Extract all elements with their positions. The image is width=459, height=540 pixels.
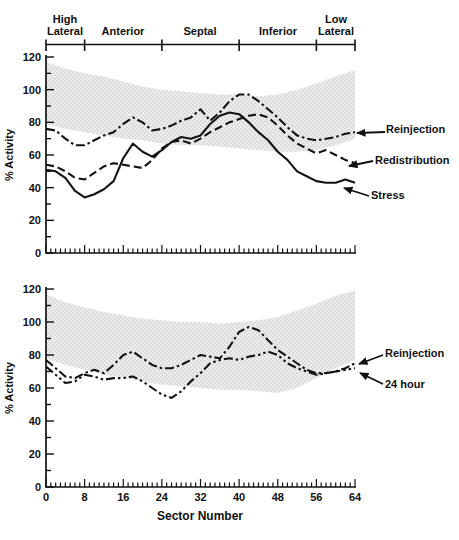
y-tick-label: 120 xyxy=(23,283,41,295)
y-tick-label: 0 xyxy=(35,481,41,493)
x-ticks xyxy=(46,479,355,487)
x-tick-label: 0 xyxy=(43,491,49,503)
y-tick-label: 0 xyxy=(35,247,41,259)
y-tick-label: 20 xyxy=(29,448,41,460)
bottom-panel: 0204060801001200816243240485664 xyxy=(23,283,383,503)
y-tick-label: 60 xyxy=(29,382,41,394)
annotation-arrow xyxy=(344,188,369,196)
annotation-stress: Stress xyxy=(371,189,405,201)
x-ticks xyxy=(46,245,355,253)
x-tick-labels: 0816243240485664 xyxy=(43,491,362,503)
x-tick-label: 16 xyxy=(117,491,129,503)
annotation-arrow xyxy=(357,132,385,133)
annotation-arrow xyxy=(360,373,383,384)
dual-panel-line-chart: 0204060801001200204060801001200816243240… xyxy=(0,0,459,540)
region-label-septal: Septal xyxy=(183,25,216,37)
x-tick-label: 56 xyxy=(310,491,322,503)
x-tick-label: 48 xyxy=(272,491,284,503)
y-tick-label: 80 xyxy=(29,116,41,128)
annotation-reinjection-bottom: Reinjection xyxy=(385,347,444,359)
y-axis-title-top: % Activity xyxy=(3,115,19,195)
x-tick-label: 24 xyxy=(156,491,169,503)
normal-range-band xyxy=(46,291,355,393)
y-tick-labels: 020406080100120 xyxy=(23,51,41,259)
y-axis-title-bottom: % Activity xyxy=(3,348,19,428)
y-tick-label: 120 xyxy=(23,51,41,63)
annotation-arrow xyxy=(359,355,383,364)
region-ruler xyxy=(45,40,355,52)
y-tick-label: 60 xyxy=(29,149,41,161)
x-tick-label: 8 xyxy=(82,491,88,503)
x-axis-title: Sector Number xyxy=(157,509,243,523)
top-panel: 020406080100120 xyxy=(23,51,385,259)
region-label-low-lateral: Low Lateral xyxy=(310,13,362,37)
y-tick-label: 100 xyxy=(23,84,41,96)
x-tick-label: 40 xyxy=(233,491,245,503)
y-tick-label: 80 xyxy=(29,349,41,361)
region-label-inferior: Inferior xyxy=(259,25,297,37)
x-tick-label: 32 xyxy=(194,491,206,503)
y-tick-label: 40 xyxy=(29,415,41,427)
figure: 0204060801001200204060801001200816243240… xyxy=(0,0,459,540)
region-label-anterior: Anterior xyxy=(102,25,145,37)
y-tick-label: 100 xyxy=(23,316,41,328)
y-tick-label: 20 xyxy=(29,214,41,226)
y-tick-label: 40 xyxy=(29,182,41,194)
region-label-high-lateral: High Lateral xyxy=(39,13,91,37)
annotation-reinjection-top: Reinjection xyxy=(386,123,445,135)
annotation-redistribution: Redistribution xyxy=(375,154,450,166)
x-tick-label: 64 xyxy=(349,491,362,503)
annotation-24-hour: 24 hour xyxy=(385,378,425,390)
y-tick-labels: 020406080100120 xyxy=(23,283,41,493)
